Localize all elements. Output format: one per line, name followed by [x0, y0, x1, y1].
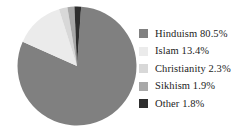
legend-label-other: Other 1.8%: [155, 99, 204, 110]
legend-label-islam: Islam 13.4%: [155, 46, 209, 57]
legend-label-sikhism: Sikhism 1.9%: [155, 81, 215, 92]
legend-swatch-islam: [139, 47, 148, 56]
pie-slice-group: [17, 7, 136, 126]
chart-legend: Hinduism 80.5% Islam 13.4% Christianity …: [139, 25, 252, 113]
legend-swatch-other: [139, 99, 148, 108]
legend-item-other[interactable]: Other 1.8%: [139, 95, 252, 113]
legend-item-hinduism[interactable]: Hinduism 80.5%: [139, 25, 252, 43]
legend-swatch-christianity: [139, 64, 148, 73]
legend-swatch-sikhism: [139, 82, 148, 91]
legend-label-christianity: Christianity 2.3%: [155, 64, 231, 75]
legend-item-christianity[interactable]: Christianity 2.3%: [139, 60, 252, 78]
legend-item-islam[interactable]: Islam 13.4%: [139, 43, 252, 61]
legend-label-hinduism: Hinduism 80.5%: [155, 29, 228, 40]
legend-item-sikhism[interactable]: Sikhism 1.9%: [139, 78, 252, 96]
pie-chart-svg: [17, 6, 137, 126]
pie-chart-figure: Hinduism 80.5% Islam 13.4% Christianity …: [0, 0, 252, 133]
pie-chart: [17, 6, 137, 126]
legend-swatch-hinduism: [139, 29, 148, 38]
